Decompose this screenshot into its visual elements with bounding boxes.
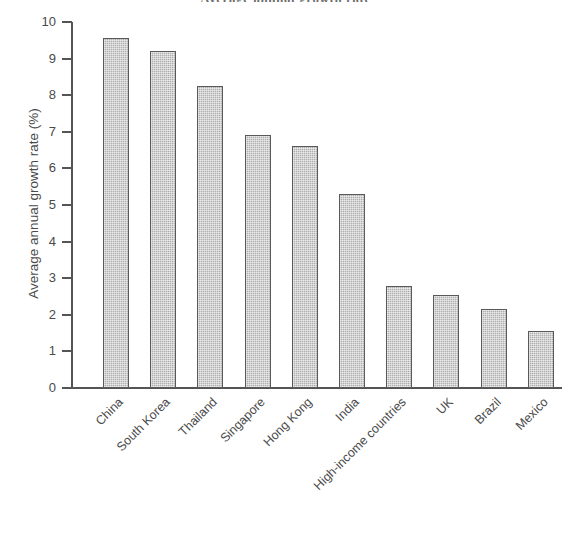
y-tick-mark bbox=[62, 277, 72, 279]
bar-thailand bbox=[197, 86, 223, 388]
bar-uk bbox=[433, 295, 459, 388]
bar-chart-figure: Average annual growth rate Average annua… bbox=[0, 0, 571, 539]
y-tick-mark bbox=[62, 94, 72, 96]
y-tick-label: 3 bbox=[16, 271, 56, 284]
y-tick-mark bbox=[62, 204, 72, 206]
chart-title: Average annual growth rate bbox=[0, 0, 571, 2]
bar-south-korea bbox=[150, 51, 176, 388]
y-tick-label: 9 bbox=[16, 52, 56, 65]
y-tick-mark bbox=[62, 350, 72, 352]
y-tick-mark bbox=[62, 241, 72, 243]
bar-hong-kong bbox=[292, 146, 318, 388]
y-tick-label: 0 bbox=[16, 381, 56, 394]
bar-india bbox=[339, 194, 365, 388]
y-tick-mark bbox=[62, 387, 72, 389]
bar-singapore bbox=[245, 135, 271, 388]
y-tick-label: 10 bbox=[16, 15, 56, 28]
bar-mexico bbox=[528, 331, 554, 388]
y-tick-label: 8 bbox=[16, 88, 56, 101]
bar-china bbox=[103, 38, 129, 388]
bar-brazil bbox=[481, 309, 507, 388]
bar-high-income-countries bbox=[386, 286, 412, 388]
y-tick-mark bbox=[62, 167, 72, 169]
y-tick-mark bbox=[62, 314, 72, 316]
y-tick-label: 6 bbox=[16, 161, 56, 174]
y-tick-label: 4 bbox=[16, 235, 56, 248]
y-tick-label: 1 bbox=[16, 344, 56, 357]
y-tick-mark bbox=[62, 131, 72, 133]
y-tick-mark bbox=[62, 21, 72, 23]
y-tick-label: 2 bbox=[16, 308, 56, 321]
plot-area bbox=[72, 22, 552, 388]
y-tick-mark bbox=[62, 58, 72, 60]
y-tick-label: 7 bbox=[16, 125, 56, 138]
y-tick-label: 5 bbox=[16, 198, 56, 211]
